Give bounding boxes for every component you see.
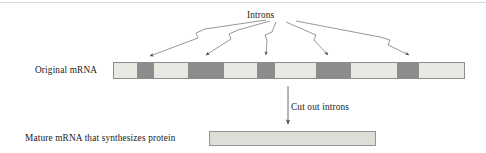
original-mrna-label: Original mRNA [35,66,97,75]
exon-segment [275,63,316,78]
introns-arrow-2 [206,21,270,55]
intron-segment [397,63,419,78]
introns-arrow-5 [296,21,409,55]
intron-segment [137,63,154,78]
introns-arrow-group [150,20,409,56]
introns-label: Introns [247,11,274,20]
introns-arrow-1 [150,20,266,56]
introns-arrow-4 [286,22,328,55]
exon-segment [114,63,137,78]
exon-segment [419,63,464,78]
intron-segment [257,63,275,78]
cut-out-introns-label: Cut out introns [291,103,349,112]
exon-segment [224,63,257,78]
mature-mrna-label: Mature mRNA that synthesizes protein [25,134,176,143]
mature-mrna-bar [209,131,376,146]
exon-segment [154,63,188,78]
intron-segment [316,63,351,78]
exon-segment [351,63,397,78]
original-mrna-bar [113,62,465,79]
introns-arrow-3 [265,22,276,55]
figure-canvas: Introns Original mRNA Cut out introns Ma… [0,0,486,153]
intron-segment [188,63,224,78]
